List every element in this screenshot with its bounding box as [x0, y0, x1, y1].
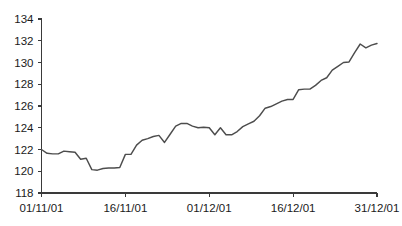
y-tick-label: 130: [14, 57, 33, 69]
chart-canvas: 118120122124126128130132134 01/11/0116/1…: [0, 0, 402, 226]
data-line-series: [42, 43, 378, 170]
y-tick-label: 134: [14, 13, 34, 25]
x-tick-label: 01/11/01: [20, 202, 64, 214]
y-tick-label: 122: [14, 144, 33, 156]
x-tick-label: 31/12/01: [355, 202, 400, 214]
x-axis-tick-labels: 01/11/0116/11/0101/12/0116/12/0131/12/01: [20, 202, 400, 214]
y-tick-label: 126: [14, 100, 33, 112]
line-chart: 118120122124126128130132134 01/11/0116/1…: [0, 0, 402, 226]
y-tick-label: 120: [14, 165, 33, 177]
x-tick-label: 01/12/01: [187, 202, 232, 214]
y-tick-label: 132: [14, 35, 33, 47]
x-tick-label: 16/11/01: [103, 202, 147, 214]
x-tick-label: 16/12/01: [271, 202, 316, 214]
x-axis-tick-marks: [42, 193, 378, 197]
y-axis-tick-labels: 118120122124126128130132134: [14, 13, 34, 199]
y-tick-label: 128: [14, 78, 33, 90]
y-tick-label: 118: [15, 187, 33, 199]
y-tick-label: 124: [14, 122, 34, 134]
